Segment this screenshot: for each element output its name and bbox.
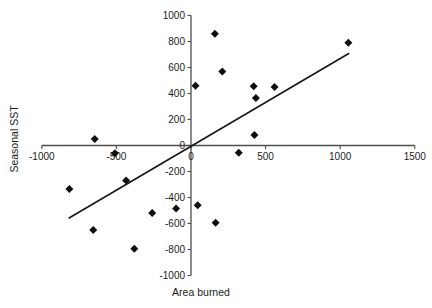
y-tick-label: 600	[168, 62, 185, 73]
data-point-marker	[172, 205, 180, 213]
y-tick-label: -200	[165, 166, 185, 177]
x-tick-label: 1500	[404, 151, 427, 162]
y-tick-label: 400	[168, 88, 185, 99]
data-point-marker	[89, 226, 97, 234]
x-tick-label: 500	[257, 151, 274, 162]
data-point-marker	[194, 201, 202, 209]
y-tick-label: 1000	[163, 10, 186, 21]
y-tick-label: 800	[168, 36, 185, 47]
data-point-marker	[148, 209, 156, 217]
data-point-marker	[212, 219, 220, 227]
x-tick-label: 1000	[329, 151, 352, 162]
x-tick-label: 0	[188, 151, 194, 162]
data-point-marker	[91, 135, 99, 143]
data-point-marker	[271, 83, 279, 91]
x-axis-title: Area burned	[172, 286, 230, 298]
y-tick-label: -400	[165, 192, 185, 203]
trend-line	[69, 53, 349, 218]
y-tick-label: -1000	[159, 270, 185, 281]
x-tick-label: -1000	[29, 151, 55, 162]
y-tick-label: 200	[168, 114, 185, 125]
trend-line-group	[69, 53, 349, 218]
data-point-marker	[211, 30, 219, 38]
data-point-marker	[250, 131, 258, 139]
y-tick-label: -800	[165, 244, 185, 255]
y-axis-title: Seasonal SST	[8, 105, 20, 172]
data-point-marker	[130, 245, 138, 253]
data-point-marker	[235, 149, 243, 157]
y-tick-label: -600	[165, 218, 185, 229]
axes	[42, 16, 415, 276]
data-point-marker	[218, 67, 226, 75]
data-point-marker	[344, 39, 352, 47]
data-point-marker	[252, 94, 260, 102]
data-point-marker	[250, 82, 258, 90]
data-point-marker	[65, 185, 73, 193]
data-point-marker	[191, 82, 199, 90]
plot-canvas: -1000-50005001000150010008006004002000-2…	[0, 0, 432, 308]
scatter-plot-figure: -1000-50005001000150010008006004002000-2…	[0, 0, 432, 308]
data-points	[65, 30, 352, 253]
